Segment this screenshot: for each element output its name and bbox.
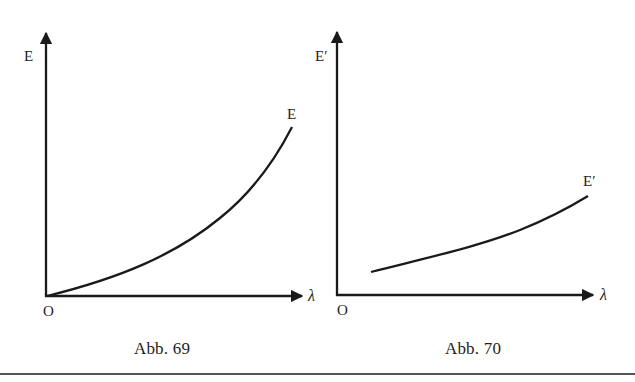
figure-70-origin-label: O xyxy=(337,303,348,318)
figure-69-origin-label: O xyxy=(43,304,54,319)
figure-69-curve-e xyxy=(47,127,292,296)
figure-70-curve-label: E′ xyxy=(583,174,595,189)
figure-69-x-axis-label: λ xyxy=(308,288,315,304)
figure-69-curve-label: E xyxy=(287,107,296,122)
figure-70-caption: Abb. 70 xyxy=(445,340,501,357)
figure-70-y-axis-label: E′ xyxy=(315,49,327,64)
figure-69-caption: Abb. 69 xyxy=(134,340,190,357)
bottom-rule-divider xyxy=(0,373,635,375)
figure-69-plot xyxy=(45,33,302,297)
figure-70-plot xyxy=(336,32,593,296)
figure-70-curve-e-prime xyxy=(371,196,588,272)
figure-70-x-axis-label: λ xyxy=(600,287,607,303)
figure-69-y-axis-label: E xyxy=(24,49,33,64)
